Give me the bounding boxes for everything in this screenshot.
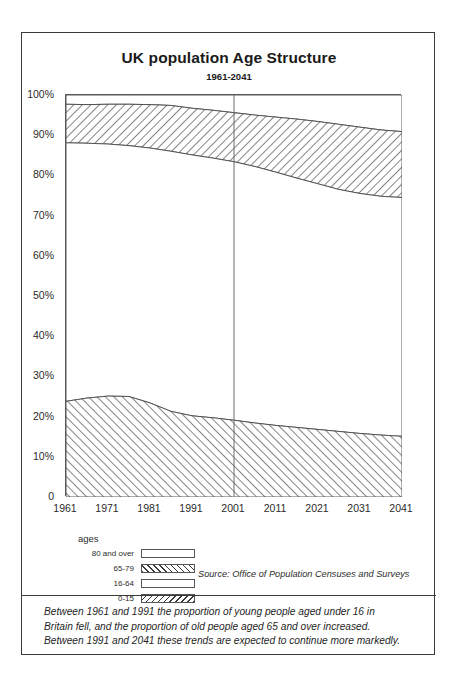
caption-line: Between 1991 and 2041 these trends are e… (44, 634, 420, 649)
stacked-area-chart (66, 95, 402, 497)
y-tick-70%: 70% (0, 209, 54, 221)
y-tick-80%: 80% (0, 168, 54, 180)
plot-wrapper: 010%20%30%40%50%60%70%80%90%100% 1961197… (65, 94, 401, 496)
chart-title: UK population Age Structure (22, 49, 436, 67)
figure-frame: UK population Age Structure 1961-2041 (21, 32, 435, 655)
caption-line: Between 1961 and 1991 the proportion of … (44, 605, 420, 620)
y-tick-10%: 10% (0, 450, 54, 462)
legend-title: ages (78, 533, 238, 544)
y-tick-90%: 90% (0, 128, 54, 140)
y-tick-60%: 60% (0, 249, 54, 261)
y-tick-0: 0 (0, 490, 54, 502)
y-tick-30%: 30% (0, 369, 54, 381)
x-tick-2041: 2041 (376, 502, 426, 514)
legend-swatch-forward-hatch (141, 564, 195, 573)
plot-area (65, 94, 401, 496)
y-tick-100%: 100% (0, 88, 54, 100)
y-tick-20%: 20% (0, 410, 54, 422)
legend-swatch-solid-white (141, 579, 195, 588)
y-tick-50%: 50% (0, 289, 54, 301)
legend-item-label: 65-79 (58, 564, 141, 573)
y-tick-40%: 40% (0, 329, 54, 341)
legend-swatch-solid-white (141, 549, 195, 558)
legend-item-label: 80 and over (58, 549, 141, 558)
caption-box: Between 1961 and 1991 the proportion of … (22, 595, 436, 656)
chart-subtitle: 1961-2041 (22, 71, 436, 82)
legend-item-80-and-over: 80 and over (58, 547, 238, 560)
legend-item-label: 16-64 (58, 579, 141, 588)
source-note: Source: Office of Population Censuses an… (198, 569, 428, 579)
caption-text: Between 1961 and 1991 the proportion of … (44, 605, 420, 649)
caption-line: Britain fell, and the proportion of old … (44, 620, 420, 635)
